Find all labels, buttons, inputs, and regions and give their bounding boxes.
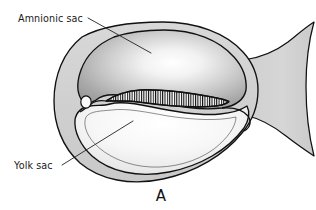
panel-letter: A [156,187,167,205]
vesicle-icon [81,96,91,108]
label-yolk-sac: Yolk sac [13,160,53,171]
figure-panel-a: Amnionic sac Yolk sac A [0,0,316,210]
label-amnionic-sac: Amnionic sac [18,13,83,24]
anatomy-illustration: Amnionic sac Yolk sac A [0,0,316,210]
